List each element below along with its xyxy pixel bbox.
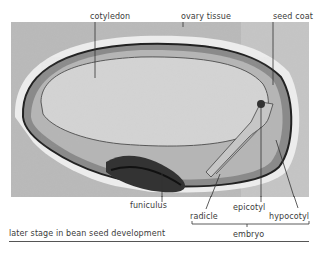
label-embryo: embryo xyxy=(233,230,264,239)
label-hypocotyl: hypocotyl xyxy=(269,212,309,221)
seed-micrograph xyxy=(11,22,309,197)
label-ovary-tissue: ovary tissue xyxy=(181,12,231,21)
divider xyxy=(9,241,309,242)
label-epicotyl: epicotyl xyxy=(233,203,265,212)
label-cotyledon: cotyledon xyxy=(90,12,130,21)
figure-caption: later stage in bean seed development xyxy=(9,229,165,238)
label-seed-coat: seed coat xyxy=(273,12,313,21)
label-radicle: radicle xyxy=(190,212,218,221)
label-funiculus: funiculus xyxy=(130,201,167,210)
